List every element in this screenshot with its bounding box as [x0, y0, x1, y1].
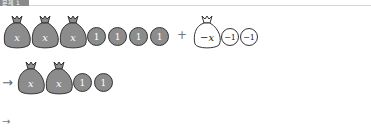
bag-x-icon: x — [45, 60, 73, 96]
arrow-right-icon: → — [2, 116, 10, 127]
bag-x-icon: x — [17, 60, 45, 96]
bag-label: x — [31, 32, 59, 43]
problem-tag: 문제 1 — [0, 0, 29, 6]
row-1: x x x 1 1 1 1 + −x −1 −1 — [3, 14, 259, 50]
arrow-right-icon: → — [2, 75, 13, 90]
coin-negative-icon: −1 — [221, 28, 239, 46]
bag-x-icon: x — [3, 14, 31, 50]
coin-negative-icon: −1 — [240, 28, 258, 46]
row-2: → x x 1 1 — [2, 60, 115, 96]
bag-label: x — [45, 78, 73, 89]
bag-label: x — [3, 32, 31, 43]
bag-label: −x — [193, 32, 221, 43]
bag-x-icon: x — [59, 14, 87, 50]
header-divider — [29, 5, 371, 6]
bag-label: x — [17, 78, 45, 89]
coin-positive-icon: 1 — [108, 27, 127, 46]
coin-positive-icon: 1 — [73, 73, 92, 92]
coin-positive-icon: 1 — [87, 27, 106, 46]
bag-x-icon: x — [31, 14, 59, 50]
coin-positive-icon: 1 — [150, 27, 169, 46]
coin-positive-icon: 1 — [94, 73, 113, 92]
coin-positive-icon: 1 — [129, 27, 148, 46]
bag-negative-x-icon: −x — [193, 14, 221, 50]
bag-label: x — [59, 32, 87, 43]
plus-operator: + — [177, 28, 187, 42]
